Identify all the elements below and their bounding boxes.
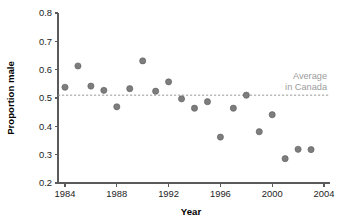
- data-point: [62, 84, 68, 90]
- data-point: [204, 99, 210, 105]
- x-tick-label: 2000: [262, 188, 283, 199]
- data-point: [269, 112, 275, 118]
- y-axis-title: Proportion male: [5, 61, 16, 135]
- x-tick-label: 1992: [158, 188, 179, 199]
- data-point: [75, 63, 81, 69]
- x-tick-label: 1996: [210, 188, 231, 199]
- data-point: [88, 83, 94, 89]
- x-tick-label: 1984: [55, 188, 76, 199]
- data-point: [282, 156, 288, 162]
- average-label-line1: Average: [293, 71, 327, 81]
- data-point: [230, 105, 236, 111]
- data-point: [191, 105, 197, 111]
- data-point: [127, 86, 133, 92]
- data-point: [295, 146, 301, 152]
- data-point: [101, 87, 107, 93]
- y-tick-label: 0.7: [39, 36, 52, 47]
- y-tick-label: 0.3: [39, 149, 52, 160]
- y-tick-label: 0.4: [39, 121, 52, 132]
- y-tick-label: 0.5: [39, 92, 52, 103]
- average-label-line2: in Canada: [285, 82, 328, 92]
- y-tick-label: 0.8: [39, 7, 52, 18]
- data-point: [114, 104, 120, 110]
- data-point: [256, 129, 262, 135]
- data-point: [243, 92, 249, 98]
- x-tick-label: 1988: [106, 188, 127, 199]
- data-point: [153, 88, 159, 94]
- data-point: [217, 134, 223, 140]
- x-tick-label: 2004: [314, 188, 335, 199]
- data-point: [178, 96, 184, 102]
- data-point: [140, 58, 146, 64]
- y-tick-label: 0.6: [39, 64, 52, 75]
- data-point: [166, 79, 172, 85]
- data-point: [308, 146, 314, 152]
- x-axis-title: Year: [181, 206, 202, 217]
- scatter-chart: 0.20.30.40.50.60.70.8 198419881992199620…: [0, 0, 349, 222]
- y-tick-label: 0.2: [39, 177, 52, 188]
